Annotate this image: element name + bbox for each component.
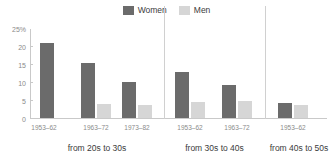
legend-label-men: Men <box>194 6 211 15</box>
panel-divider-2 <box>265 6 266 119</box>
y-tick-label-0: 0 <box>0 116 26 123</box>
bar-men-p3-c1 <box>294 105 308 118</box>
group-label-30s-to-40s: from 30s to 40s <box>164 143 265 153</box>
plot-area: 0 5 10 15 20 25% <box>30 29 327 119</box>
x-tick-label-p2-c2: 1963–72 <box>215 124 259 132</box>
y-tick-mark-10 <box>30 82 33 83</box>
y-axis-line <box>30 29 31 119</box>
bar-women-p1-c3 <box>122 82 136 118</box>
group-label-40s-to-50s: from 40s to 50s <box>265 143 333 153</box>
chart-legend: Women Men <box>0 6 333 15</box>
y-tick-mark-0 <box>30 118 33 119</box>
bar-women-p2-c1 <box>175 72 189 118</box>
bar-women-p2-c2 <box>222 85 236 118</box>
y-tick-mark-20 <box>30 46 33 47</box>
x-tick-label-p2-c1: 1953–62 <box>168 124 212 132</box>
bar-men-p2-c2 <box>238 101 252 118</box>
y-tick-label-5: 5 <box>0 98 26 105</box>
y-tick-label-10: 10 <box>0 80 26 87</box>
legend-label-women: Women <box>138 6 167 15</box>
legend-swatch-women <box>123 6 134 15</box>
y-tick-label-15: 15 <box>0 62 26 69</box>
legend-item-men: Men <box>179 6 211 15</box>
legend-swatch-men <box>179 6 190 15</box>
bar-women-p1-c2 <box>81 63 95 118</box>
x-axis-line <box>30 118 327 119</box>
legend-item-women: Women <box>123 6 167 15</box>
x-tick-label-p3-c1: 1953–62 <box>271 124 315 132</box>
y-tick-label-20: 20 <box>0 44 26 51</box>
y-tick-mark-5 <box>30 100 33 101</box>
y-tick-mark-15 <box>30 64 33 65</box>
y-tick-label-25: 25% <box>0 26 26 33</box>
bar-men-p2-c1 <box>191 102 205 118</box>
bar-men-p1-c3 <box>138 105 152 118</box>
group-label-20s-to-30s: from 20s to 30s <box>30 143 164 153</box>
panel-divider-1 <box>164 6 165 119</box>
x-tick-label-p1-c1: 1953–62 <box>22 124 66 132</box>
x-tick-label-p1-c2: 1963–72 <box>74 124 118 132</box>
x-tick-label-p1-c3: 1973–82 <box>115 124 159 132</box>
bar-women-p1-c1 <box>40 43 54 118</box>
bar-men-p1-c2 <box>97 104 111 118</box>
bar-chart: Women Men 0 5 10 15 20 25% <box>0 0 333 164</box>
bar-women-p3-c1 <box>278 103 292 118</box>
